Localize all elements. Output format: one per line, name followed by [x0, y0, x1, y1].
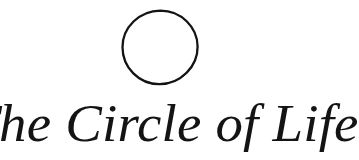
circle-ring-weight-accent	[123, 53, 197, 84]
wordmark: The Circle of Life	[0, 89, 327, 160]
wordmark-title: The Circle of Life	[0, 97, 359, 150]
circle-ring-group	[122, 11, 197, 85]
circle-mark	[0, 0, 327, 95]
